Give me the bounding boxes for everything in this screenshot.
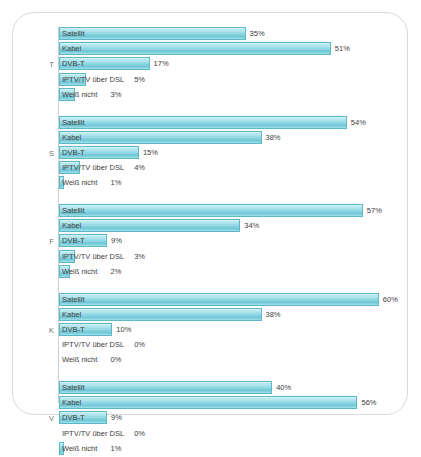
bar-value-label: 34% <box>244 219 259 232</box>
bar <box>59 27 246 40</box>
bar-group: FSatellit57%Kabel34%DVB-T9%IPTV/TV über … <box>46 204 403 280</box>
bar-group: KSatellit60%Kabel38%DVB-T10%IPTV/TV über… <box>46 293 403 369</box>
bar <box>59 131 262 144</box>
bar-row: Satellit57% <box>59 204 403 217</box>
bar <box>59 293 379 306</box>
bar-group: VSatellit40%Kabel56%DVB-T9%IPTV/TV über … <box>46 381 403 457</box>
bar-row: Satellit40% <box>59 381 403 394</box>
bar-value-label: 38% <box>266 308 281 321</box>
bar-value-label: 35% <box>250 27 265 40</box>
bar <box>59 396 357 409</box>
group-axis-label: T <box>46 60 57 70</box>
bar-category-label: Satellit <box>62 293 85 306</box>
bar-category-label: Kabel <box>62 131 81 144</box>
bar-row: Kabel38% <box>59 308 403 321</box>
bar-value-label: 51% <box>335 42 350 55</box>
bar-category-label: Weiß nicht <box>62 442 97 455</box>
bar-row: Weiß nicht1% <box>59 442 403 455</box>
bar-category-label: IPTV/TV über DSL <box>62 427 124 440</box>
bar-category-label: DVB-T <box>62 323 85 336</box>
bar-value-label: 1% <box>111 442 122 455</box>
bar-category-label: Weiß nicht <box>62 265 97 278</box>
bar-row: IPTV/TV über DSL0% <box>59 338 403 351</box>
bar-row: IPTV/TV über DSL5% <box>59 73 403 86</box>
bar <box>59 42 331 55</box>
bar-row: Kabel34% <box>59 219 403 232</box>
bar-value-label: 54% <box>351 116 366 129</box>
bar-category-label: Satellit <box>62 116 85 129</box>
bar-row: Weiß nicht1% <box>59 176 403 189</box>
bar-value-label: 57% <box>367 204 382 217</box>
bar-value-label: 3% <box>134 250 145 263</box>
bar-value-label: 15% <box>143 146 158 159</box>
bar-row: Kabel38% <box>59 131 403 144</box>
bar-category-label: IPTV/TV über DSL <box>62 73 124 86</box>
bar-value-label: 4% <box>134 161 145 174</box>
bar-category-label: Weiß nicht <box>62 88 97 101</box>
group-axis-label: K <box>46 326 57 336</box>
bar-row: Kabel56% <box>59 396 403 409</box>
bar-category-label: DVB-T <box>62 146 85 159</box>
group-axis-label: F <box>46 237 57 247</box>
bar-category-label: Kabel <box>62 42 81 55</box>
bar-row: Satellit60% <box>59 293 403 306</box>
bar-row: Weiß nicht2% <box>59 265 403 278</box>
bar-category-label: Weiß nicht <box>62 176 97 189</box>
bar-row: Weiß nicht0% <box>59 353 403 366</box>
bar-value-label: 17% <box>154 57 169 70</box>
bar-value-label: 10% <box>116 323 131 336</box>
bar-category-label: DVB-T <box>62 234 85 247</box>
bar-value-label: 9% <box>111 411 122 424</box>
bar-value-label: 0% <box>134 427 145 440</box>
bar <box>59 204 363 217</box>
bar-category-label: IPTV/TV über DSL <box>62 250 124 263</box>
bar-category-label: Satellit <box>62 381 85 394</box>
bar-group: SSatellit54%Kabel38%DVB-T15%IPTV/TV über… <box>46 116 403 192</box>
bar-category-label: DVB-T <box>62 57 85 70</box>
bar-row: IPTV/TV über DSL4% <box>59 161 403 174</box>
bar-row: Satellit35% <box>59 27 403 40</box>
bar-value-label: 60% <box>383 293 398 306</box>
bar-category-label: IPTV/TV über DSL <box>62 161 124 174</box>
bar-row: DVB-T9% <box>59 411 403 424</box>
bar-value-label: 2% <box>111 265 122 278</box>
bar-category-label: Kabel <box>62 396 81 409</box>
bar-category-label: IPTV/TV über DSL <box>62 338 124 351</box>
bar-value-label: 0% <box>111 353 122 366</box>
bar-row: DVB-T15% <box>59 146 403 159</box>
group-axis-label: V <box>46 414 57 424</box>
bar-group: TSatellit35%Kabel51%DVB-T17%IPTV/TV über… <box>46 27 403 103</box>
bar-row: Weiß nicht3% <box>59 88 403 101</box>
bar-row: DVB-T17% <box>59 57 403 70</box>
group-axis-label: S <box>46 149 57 159</box>
bar-category-label: Weiß nicht <box>62 353 97 366</box>
bar <box>59 381 272 394</box>
chart-plot-area: TSatellit35%Kabel51%DVB-T17%IPTV/TV über… <box>46 22 403 408</box>
bar <box>59 116 347 129</box>
bar-row: Satellit54% <box>59 116 403 129</box>
bar-row: Kabel51% <box>59 42 403 55</box>
bar-value-label: 9% <box>111 234 122 247</box>
bar-value-label: 5% <box>134 73 145 86</box>
bar-row: DVB-T10% <box>59 323 403 336</box>
bar-row: IPTV/TV über DSL3% <box>59 250 403 263</box>
bar-value-label: 40% <box>276 381 291 394</box>
bar-category-label: Satellit <box>62 204 85 217</box>
bar-category-label: Satellit <box>62 27 85 40</box>
bar-value-label: 3% <box>111 88 122 101</box>
chart-panel: TSatellit35%Kabel51%DVB-T17%IPTV/TV über… <box>12 12 408 415</box>
bar-value-label: 1% <box>111 176 122 189</box>
bar-value-label: 56% <box>361 396 376 409</box>
bar-category-label: Kabel <box>62 219 81 232</box>
bar-row: IPTV/TV über DSL0% <box>59 427 403 440</box>
bar-value-label: 38% <box>266 131 281 144</box>
bar <box>59 308 262 321</box>
bar <box>59 219 240 232</box>
bar-row: DVB-T9% <box>59 234 403 247</box>
bar-value-label: 0% <box>134 338 145 351</box>
bar-category-label: Kabel <box>62 308 81 321</box>
bar-category-label: DVB-T <box>62 411 85 424</box>
